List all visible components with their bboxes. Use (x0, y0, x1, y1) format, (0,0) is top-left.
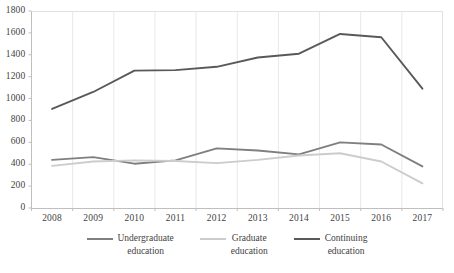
y-axis-tick-label: 1400 (6, 49, 26, 59)
y-axis-tick-label: 1200 (6, 71, 26, 81)
y-axis-tick-label: 600 (11, 136, 26, 146)
x-axis-tick-label: 2011 (156, 213, 196, 223)
x-axis-tick-label: 2017 (402, 213, 442, 223)
legend-swatch-graduate-icon (200, 238, 226, 240)
legend-item-graduate-education[interactable]: Graduate education (200, 232, 268, 258)
y-axis-tick-label: 1000 (6, 93, 26, 103)
x-axis-tick-label: 2013 (238, 213, 278, 223)
y-axis-tick-label: 400 (11, 158, 26, 168)
legend-label-undergraduate-education: Undergraduate education (118, 232, 174, 258)
x-axis-tick-label: 2009 (73, 213, 113, 223)
vertical-gridlines (73, 11, 402, 208)
legend-item-undergraduate-education[interactable]: Undergraduate education (87, 232, 174, 258)
y-axis-tick-label: 1800 (6, 5, 26, 15)
legend-item-continuing-education[interactable]: Continuing education (294, 232, 368, 258)
y-axis-tick-label: 800 (11, 114, 26, 124)
chart-legend: Undergraduate education Graduate educati… (0, 232, 454, 258)
legend-swatch-continuing-icon (294, 238, 320, 240)
x-axis-tick-label: 2015 (320, 213, 360, 223)
x-axis-tick-label: 2012 (197, 213, 237, 223)
y-axis-tick-label: 1600 (6, 27, 26, 37)
x-axis-tick-label: 2014 (279, 213, 319, 223)
x-axis-tick-label: 2016 (361, 213, 401, 223)
x-axis-tick-label: 2010 (114, 213, 154, 223)
legend-label-graduate-education: Graduate education (231, 232, 268, 258)
y-axis-tick-label: 0 (21, 202, 26, 212)
y-axis-tick-label: 200 (11, 180, 26, 190)
legend-label-continuing-education: Continuing education (325, 232, 368, 258)
x-axis-tick-label: 2008 (32, 213, 72, 223)
line-chart: 020040060080010001200140016001800 200820… (0, 0, 454, 273)
legend-swatch-undergraduate-icon (87, 238, 113, 240)
